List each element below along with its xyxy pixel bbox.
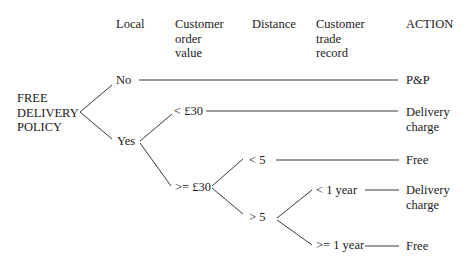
edge-ge30-lt5: [212, 159, 243, 186]
edge-gt5-lt1: [277, 190, 312, 218]
node-distance-gt5: > 5: [249, 210, 265, 225]
header-trade-record: Customer trade record: [316, 17, 365, 61]
node-local-yes: Yes: [117, 134, 135, 149]
action-free-ge1year: Free: [406, 239, 428, 254]
edge-yes-lt30: [140, 114, 172, 141]
node-order-lt30: < £30: [174, 104, 203, 119]
node-distance-lt5: < 5: [249, 153, 265, 168]
node-record-ge1: >= 1 year: [316, 238, 364, 253]
header-local: Local: [116, 17, 144, 32]
action-delivery-charge-lt1year: Delivery charge: [406, 183, 450, 212]
header-distance: Distance: [252, 17, 296, 32]
edge-root-no: [80, 85, 112, 112]
action-pp: P&P: [406, 73, 430, 88]
node-order-ge30: >= £30: [175, 180, 211, 195]
edge-root-yes: [80, 112, 112, 139]
header-order-value: Customer order value: [175, 17, 224, 61]
edge-gt5-ge1: [277, 220, 312, 245]
edge-yes-ge30: [140, 143, 171, 186]
action-delivery-charge-lt30: Delivery charge: [406, 105, 450, 134]
action-free-lt5: Free: [406, 153, 428, 168]
node-record-lt1: < 1 year: [316, 183, 357, 198]
node-local-no: No: [116, 73, 131, 88]
header-action: ACTION: [406, 17, 453, 32]
root-node: FREE DELIVERY POLICY: [17, 91, 79, 135]
edge-ge30-gt5: [212, 188, 243, 214]
